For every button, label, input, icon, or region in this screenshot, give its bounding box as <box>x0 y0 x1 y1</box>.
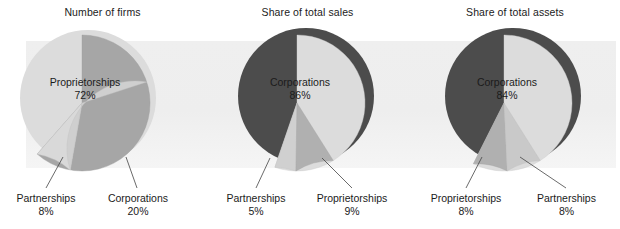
chart-title-1: Number of firms <box>0 6 205 18</box>
pie-2-callout-partnerships-pct: 5% <box>206 205 306 218</box>
pie-2-callout-proprietorships: Proprietorships 9% <box>293 192 411 218</box>
chart-panel-share-of-total-assets: Share of total assets Corporations 84% <box>410 0 620 229</box>
pie-3-callout-partnerships-pct: 8% <box>514 205 619 218</box>
pie-1-callout-corporations: Corporations 20% <box>88 192 188 218</box>
pie-3-callout-proprietorships-name: Proprietorships <box>431 192 502 204</box>
pie-3-callout-partnerships: Partnerships 8% <box>514 192 619 218</box>
pie-2-callout-partnerships-name: Partnerships <box>227 192 286 204</box>
pie-2 <box>225 28 385 178</box>
pie-1 <box>10 28 160 178</box>
pie-2-callout-partnerships: Partnerships 5% <box>206 192 306 218</box>
chart-title-2: Share of total sales <box>205 6 410 18</box>
pie-2-callout-proprietorships-pct: 9% <box>293 205 411 218</box>
pie-1-callout-partnerships: Partnerships 8% <box>0 192 96 218</box>
pie-1-callout-corporations-pct: 20% <box>88 205 188 218</box>
pie-3 <box>432 28 597 178</box>
chart-panel-number-of-firms: Number of firms Proprietorships 72% Pa <box>0 0 205 229</box>
pie-1-callout-partnerships-pct: 8% <box>0 205 96 218</box>
pie-3-callout-proprietorships-pct: 8% <box>407 205 525 218</box>
pie-2-callout-proprietorships-name: Proprietorships <box>317 192 388 204</box>
pie-1-callout-partnerships-name: Partnerships <box>17 192 76 204</box>
pie-3-callout-proprietorships: Proprietorships 8% <box>407 192 525 218</box>
pie-3-callout-partnerships-name: Partnerships <box>537 192 596 204</box>
chart-panel-share-of-total-sales: Share of total sales Corporations 86% <box>205 0 410 229</box>
pie-chart-figure: Number of firms Proprietorships 72% Pa <box>0 0 620 229</box>
chart-title-3: Share of total assets <box>410 6 620 18</box>
pie-1-callout-corporations-name: Corporations <box>108 192 168 204</box>
